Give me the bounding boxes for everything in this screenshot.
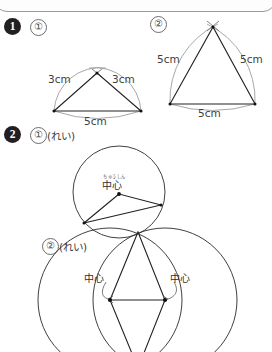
- circumference-dot-2: [160, 204, 163, 207]
- vertex-dot-apex: [96, 72, 99, 75]
- figure-2-2-two-overlapping-circles: 中心 中心: [22, 252, 254, 352]
- item-marker-2-1: ①: [30, 127, 47, 144]
- section-badge-2: 2: [4, 126, 21, 143]
- inscribed-triangle-outline: [84, 194, 161, 223]
- leader-line-right: [168, 282, 176, 299]
- vertex-dot-left: [169, 103, 172, 106]
- section-badge-1: 1: [4, 18, 21, 35]
- center-dot: [117, 192, 121, 196]
- circumference-dot-1: [83, 222, 86, 225]
- figure-2-1-circle-with-triangle: ちゅうしん 中心: [62, 143, 182, 241]
- leader-line-left: [102, 282, 108, 299]
- center-dot-right: [163, 298, 167, 302]
- item-note-2-1: (れい): [47, 128, 75, 143]
- dim-label-base: 5cm: [84, 115, 107, 127]
- center-label-left: 中心: [84, 272, 104, 284]
- vertex-dot-right: [140, 110, 143, 113]
- center-dot-left: [108, 298, 112, 302]
- top-panel-frame: [0, 0, 272, 12]
- rhombus-outline: [110, 232, 165, 352]
- center-label-right: 中心: [170, 272, 190, 284]
- dim-label-base: 5cm: [198, 107, 221, 119]
- item-marker-1-1: ①: [30, 19, 47, 36]
- dim-label-left-side: 5cm: [157, 53, 180, 65]
- figure-1-2-equilateral-triangle: 5cm 5cm 5cm: [152, 18, 270, 118]
- circle-outline: [73, 146, 165, 238]
- figure-1-1-isosceles-triangle: 3cm 3cm 5cm: [40, 64, 155, 126]
- vertex-dot-left: [53, 110, 56, 113]
- vertex-dot-right: [254, 103, 257, 106]
- center-label-kanji: 中心: [102, 179, 122, 191]
- triangle-outline: [170, 27, 255, 104]
- dim-label-right-side: 3cm: [112, 73, 135, 85]
- dim-label-left-side: 3cm: [48, 73, 71, 85]
- vertex-dot-apex: [212, 26, 215, 29]
- dim-label-right-side: 5cm: [240, 53, 263, 65]
